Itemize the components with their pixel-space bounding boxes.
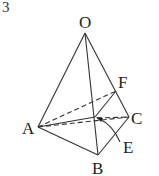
- edge-AB: [38, 127, 98, 155]
- label-C: C: [131, 109, 142, 128]
- label-A: A: [22, 119, 35, 138]
- edge-OB: [85, 33, 98, 155]
- segment-P-F: [95, 91, 116, 117]
- label-E: E: [123, 138, 133, 157]
- label-B: B: [92, 159, 103, 176]
- label-F: F: [118, 73, 127, 92]
- edge-OA: [38, 33, 85, 127]
- leader-curve-E: [99, 119, 120, 142]
- problem-number: 3: [2, 0, 10, 15]
- label-O: O: [79, 13, 91, 32]
- tetrahedron-diagram: 3 O A B C F E: [0, 0, 159, 176]
